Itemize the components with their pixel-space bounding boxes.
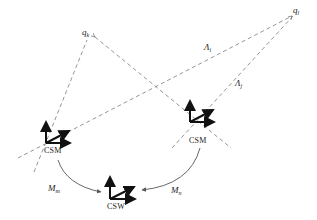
curve-m-m [58,160,101,192]
transform-label-m-n: Mn [171,186,182,196]
transform-label-m-m: Mm [48,184,60,194]
point-label-ql: ql [293,6,299,16]
ray-label-lambda-j: Λj [235,79,242,89]
frame-label-csm-left: CSM [44,147,62,155]
frame-label-csm-right: CSM [189,137,207,145]
curve-m-n [142,148,200,190]
csm-right-axes [190,101,214,122]
csw-axes [110,177,135,199]
ray-qk-to-right [95,37,231,148]
ray-label-lambda-i: Λi [204,43,211,53]
ray-lambda-j [172,16,293,148]
point-label-qk: qk [82,28,89,38]
frame-label-csw: CSW [107,203,125,211]
